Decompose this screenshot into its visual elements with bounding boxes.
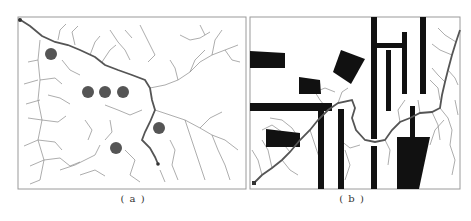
figure-canvas [0, 0, 471, 221]
panel-a [18, 17, 246, 189]
caption-a: ( a ) [113, 193, 153, 204]
start-point-b [252, 181, 256, 185]
caption-b: ( b ) [332, 193, 372, 204]
start-point [18, 18, 22, 22]
panel-b [250, 17, 460, 189]
panel-a-frame [18, 17, 246, 189]
goal-point [156, 162, 160, 166]
